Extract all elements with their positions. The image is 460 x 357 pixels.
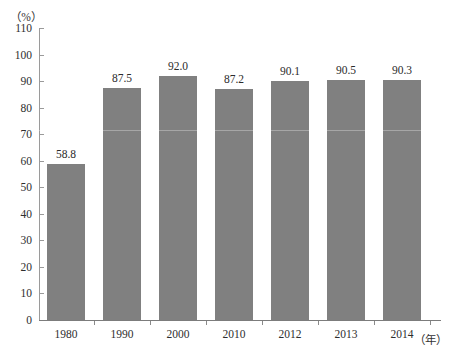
y-axis-tick-label: 0 [0, 314, 32, 326]
bar-value-label: 58.8 [56, 148, 76, 160]
x-axis-tick-label: 1980 [55, 328, 78, 340]
y-axis-line [39, 28, 40, 321]
bar [47, 164, 85, 320]
bar-value-label: 87.5 [112, 72, 132, 84]
x-axis-line [39, 320, 441, 321]
bar [159, 76, 197, 320]
bar-value-label: 92.0 [168, 60, 188, 72]
y-axis-tick [40, 108, 44, 109]
x-axis-tick-label: 2013 [335, 328, 358, 340]
y-axis-tick-label: 20 [0, 261, 32, 273]
x-axis-tick [262, 321, 263, 325]
x-axis-tick [206, 321, 207, 325]
y-axis-tick [40, 55, 44, 56]
x-axis-tick-label: 2010 [223, 328, 246, 340]
y-axis-tick-label: 100 [0, 49, 32, 61]
x-axis-tick [430, 321, 431, 325]
y-axis-tick-label: 110 [0, 22, 32, 34]
y-axis-tick-label: 70 [0, 128, 32, 140]
y-axis-tick [40, 240, 44, 241]
x-axis-tick [318, 321, 319, 325]
bar [327, 80, 365, 320]
y-axis-tick [40, 267, 44, 268]
y-axis-tick-label: 80 [0, 102, 32, 114]
y-axis-tick [40, 28, 44, 29]
x-axis-tick [150, 321, 151, 325]
x-axis-tick-label: 2000 [167, 328, 190, 340]
y-axis-tick-label: 90 [0, 75, 32, 87]
x-axis-tick-label: 2014 [391, 328, 414, 340]
y-axis-tick-label: 60 [0, 155, 32, 167]
y-axis-tick [40, 134, 44, 135]
bar-value-label: 90.3 [392, 64, 412, 76]
bar-value-label: 90.1 [280, 65, 300, 77]
y-axis-tick [40, 81, 44, 82]
bar [271, 81, 309, 320]
y-axis-tick [40, 214, 44, 215]
bar [103, 88, 141, 320]
bar-chart: （%） （年） 0102030405060708090100110 198019… [0, 0, 460, 357]
bar-value-label: 87.2 [224, 73, 244, 85]
x-axis-tick-label: 2012 [279, 328, 302, 340]
bar-value-label: 90.5 [336, 64, 356, 76]
x-axis-unit-label: （年） [414, 331, 448, 347]
x-axis-tick [94, 321, 95, 325]
y-axis-tick-label: 10 [0, 287, 32, 299]
bar [215, 89, 253, 320]
y-axis-tick-label: 40 [0, 208, 32, 220]
y-axis-tick [40, 293, 44, 294]
x-axis-tick [374, 321, 375, 325]
y-axis-tick-label: 30 [0, 234, 32, 246]
y-axis-tick [40, 161, 44, 162]
scan-line-artifact [39, 130, 441, 131]
x-axis-tick-label: 1990 [111, 328, 134, 340]
y-axis-tick-label: 50 [0, 181, 32, 193]
bar [383, 80, 421, 320]
y-axis-tick [40, 187, 44, 188]
